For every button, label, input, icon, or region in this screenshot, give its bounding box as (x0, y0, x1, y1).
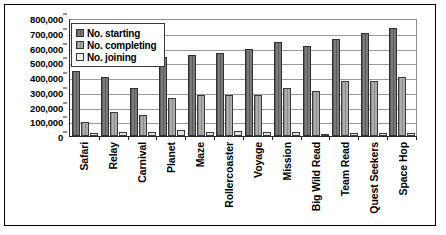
bar-group-bars (185, 20, 214, 136)
x-axis-label: Big Wild Read (310, 142, 322, 211)
bar-2[interactable] (263, 132, 271, 136)
y-axis-tick-mark (63, 73, 67, 74)
bar-1[interactable] (197, 95, 205, 136)
y-axis-tick: 800,000 (30, 14, 63, 25)
y-axis-tick-mark (63, 14, 67, 15)
bar-1[interactable] (81, 122, 89, 136)
y-axis-tick-mark (63, 87, 67, 88)
bar-2[interactable] (407, 133, 415, 136)
y-axis-tick: 600,000 (30, 43, 63, 54)
bar-group-bars (243, 20, 272, 136)
bar-1[interactable] (168, 98, 176, 136)
y-axis-tick: 400,000 (30, 73, 63, 84)
bar-2[interactable] (90, 133, 98, 136)
x-axis-cell: Space Hop (388, 139, 417, 223)
y-axis-tick-mark (63, 43, 67, 44)
bar-2[interactable] (119, 132, 127, 136)
bar-0[interactable] (274, 42, 282, 136)
x-axis-label: Carnival (136, 142, 148, 183)
bar-group-bars (272, 20, 301, 136)
legend-label-joining: No. joining (87, 52, 136, 63)
legend-swatch-completing (76, 41, 84, 49)
bar-group-bars (387, 20, 416, 136)
chart-legend: No. starting No. completing No. joining (71, 23, 165, 67)
bar-group (272, 20, 301, 136)
bar-0[interactable] (389, 28, 397, 136)
bar-0[interactable] (303, 46, 311, 136)
bar-2[interactable] (350, 133, 358, 136)
x-axis-label: Space Hop (397, 142, 409, 195)
x-axis-label: Team Read (339, 142, 351, 196)
x-axis-cell: Carnival (127, 139, 156, 223)
x-axis-cell: Team Read (330, 139, 359, 223)
bar-1[interactable] (341, 81, 349, 136)
bar-2[interactable] (321, 134, 329, 136)
legend-label-completing: No. completing (87, 40, 156, 51)
bar-0[interactable] (332, 39, 340, 136)
y-axis-tick: 100,000 (30, 117, 63, 128)
bar-group (214, 20, 243, 136)
bar-1[interactable] (225, 95, 233, 136)
y-axis-tick-mark (63, 28, 67, 29)
x-axis-cell: Voyage (243, 139, 272, 223)
legend-swatch-starting (76, 29, 84, 37)
bar-group-bars (358, 20, 387, 136)
bar-0[interactable] (361, 33, 369, 136)
bar-1[interactable] (283, 88, 291, 136)
y-axis: 800,000700,000600,000500,000400,000300,0… (11, 13, 67, 143)
x-axis-cell: Big Wild Read (301, 139, 330, 223)
bar-0[interactable] (188, 55, 196, 136)
y-axis-tick-mark (63, 132, 67, 133)
bar-2[interactable] (292, 132, 300, 136)
bar-1[interactable] (139, 115, 147, 136)
x-axis-label: Safari (78, 142, 90, 171)
bar-2[interactable] (148, 132, 156, 136)
bar-group-bars (214, 20, 243, 136)
bar-group (243, 20, 272, 136)
y-axis-tick: 300,000 (30, 87, 63, 98)
y-axis-tick: 200,000 (30, 102, 63, 113)
y-axis-tick: 700,000 (30, 28, 63, 39)
bar-1[interactable] (370, 81, 378, 136)
bar-group (387, 20, 416, 136)
bar-0[interactable] (245, 49, 253, 136)
bar-2[interactable] (177, 130, 185, 136)
bar-2[interactable] (206, 132, 214, 136)
bar-group-bars (301, 20, 330, 136)
x-axis-cell: Relay (98, 139, 127, 223)
x-axis: SafariRelayCarnivalPlanetMazeRollercoast… (69, 139, 417, 223)
bar-1[interactable] (398, 77, 406, 136)
x-axis-label: Mission (281, 142, 293, 180)
bar-1[interactable] (312, 91, 320, 136)
x-axis-label: Relay (107, 142, 119, 170)
bar-group-bars (329, 20, 358, 136)
bar-0[interactable] (130, 88, 138, 136)
bar-2[interactable] (234, 131, 242, 136)
bar-0[interactable] (101, 77, 109, 136)
bar-group (358, 20, 387, 136)
x-axis-label: Planet (165, 142, 177, 173)
x-axis-label: Maze (194, 142, 206, 167)
y-axis-tick-mark (63, 58, 67, 59)
bar-1[interactable] (110, 112, 118, 136)
bar-group (301, 20, 330, 136)
x-axis-cell: Rollercoaster (214, 139, 243, 223)
y-axis-tick: 0 (58, 132, 63, 143)
x-axis-cell: Quest Seekers (359, 139, 388, 223)
bar-0[interactable] (72, 71, 80, 136)
y-axis-tick: 500,000 (30, 58, 63, 69)
bar-group (185, 20, 214, 136)
x-axis-cell: Mission (272, 139, 301, 223)
bar-1[interactable] (254, 95, 262, 136)
legend-item-starting: No. starting (76, 27, 156, 39)
bar-2[interactable] (379, 133, 387, 136)
x-axis-label: Quest Seekers (368, 142, 380, 214)
legend-label-starting: No. starting (87, 28, 140, 39)
bar-0[interactable] (216, 53, 224, 136)
x-axis-cell: Safari (69, 139, 98, 223)
y-axis-tick-mark (63, 117, 67, 118)
bar-0[interactable] (159, 57, 167, 136)
legend-item-completing: No. completing (76, 39, 156, 51)
legend-item-joining: No. joining (76, 51, 156, 63)
x-axis-cell: Planet (156, 139, 185, 223)
